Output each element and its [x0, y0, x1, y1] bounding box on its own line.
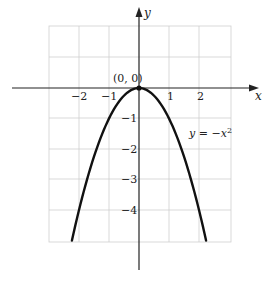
- axes: [12, 14, 252, 270]
- x-tick-label: 2: [197, 90, 204, 103]
- y-axis-arrow-icon: [136, 7, 143, 17]
- y-tick-label: −1: [121, 112, 137, 125]
- y-tick-label: −4: [121, 204, 137, 217]
- x-tick-label: 1: [167, 90, 174, 103]
- x-axis-label: x: [255, 89, 262, 103]
- y-tick-label: −3: [121, 173, 137, 186]
- y-axis-label: y: [143, 6, 151, 20]
- equation-label: y = −x2: [188, 126, 232, 140]
- y-tick-label: −2: [121, 143, 137, 156]
- x-tick-label: −2: [71, 90, 87, 103]
- plot-area: x y (0, 0) −2 −1 1 2 −1 −2 −3 −4 y = −x2: [0, 0, 272, 281]
- parabola-figure: x y (0, 0) −2 −1 1 2 −1 −2 −3 −4 y = −x2: [0, 0, 272, 281]
- origin-label: (0, 0): [113, 72, 143, 85]
- x-tick-label: −1: [101, 90, 117, 103]
- origin-point-marker: [136, 85, 141, 90]
